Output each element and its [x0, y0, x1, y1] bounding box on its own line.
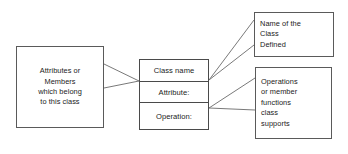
leader-bottom-right-lower	[209, 108, 255, 110]
note-line: Class	[260, 29, 279, 39]
note-line: Members	[44, 77, 75, 87]
leader-left-upper	[104, 64, 139, 81]
note-class-name-defined: Name of the Class Defined	[254, 12, 334, 57]
class-operation-label: Operation:	[156, 112, 192, 121]
class-name-compartment: Class name	[140, 60, 208, 81]
note-line: Operations	[261, 77, 298, 87]
leader-top-right-lower	[209, 45, 254, 80]
note-line: functions	[261, 98, 291, 108]
uml-class-diagram: Attributes or Members which belong to th…	[0, 0, 348, 154]
note-line: or member	[261, 87, 297, 97]
note-operations-member-functions: Operations or member functions class sup…	[255, 67, 332, 139]
leader-left-lower	[104, 81, 139, 88]
leader-bottom-right-upper	[209, 78, 255, 108]
class-box: Class name Attribute: Operation:	[139, 59, 209, 130]
note-line: supports	[261, 119, 290, 129]
note-line: Name of the	[260, 19, 301, 29]
note-line: Defined	[260, 40, 286, 50]
note-line: class	[261, 108, 278, 118]
note-line: to this class	[40, 97, 79, 107]
class-name-label: Class name	[154, 66, 195, 75]
leader-top-right-upper	[209, 20, 254, 80]
class-attribute-label: Attribute:	[159, 88, 190, 97]
class-operation-compartment: Operation:	[140, 102, 208, 129]
note-attributes-members: Attributes or Members which belong to th…	[16, 46, 104, 128]
class-attribute-compartment: Attribute:	[140, 81, 208, 103]
note-line: Attributes or	[40, 66, 81, 76]
note-line: which belong	[38, 87, 82, 97]
